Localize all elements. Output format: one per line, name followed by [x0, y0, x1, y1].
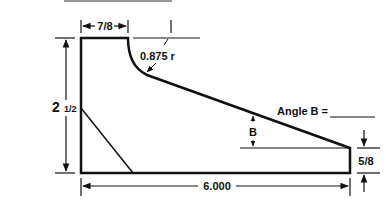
label-right-height: 5/8	[358, 155, 373, 167]
label-base-width: 6.000	[203, 180, 231, 192]
technical-drawing: 7/8 0.875 r 2 1/2 6.000 B Angle B = 5/8	[0, 0, 386, 212]
label-angle-question: Angle B =	[277, 105, 328, 117]
label-top-width: 7/8	[97, 20, 112, 32]
chamfer-line	[81, 108, 133, 173]
radius-leader-arrow	[147, 63, 156, 72]
label-height-fraction: 1/2	[64, 104, 77, 114]
radius-leader-top	[164, 39, 168, 45]
label-radius: 0.875 r	[140, 50, 176, 62]
label-angle-marker: B	[249, 126, 257, 138]
label-height-whole: 2	[52, 99, 60, 115]
